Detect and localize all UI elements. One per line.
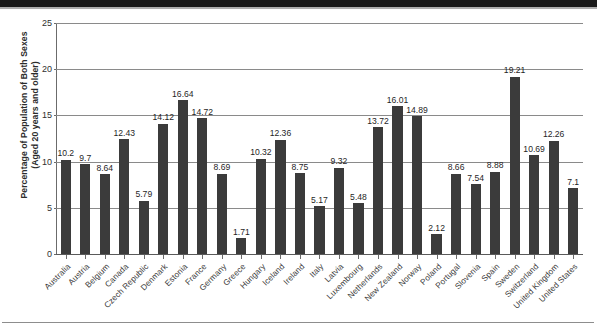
- bar-value-label: 8.64: [96, 163, 113, 173]
- y-axis-tick-label: 25: [30, 18, 52, 28]
- bar-group[interactable]: 7.54: [466, 23, 486, 254]
- bar-group[interactable]: 8.75: [290, 23, 310, 254]
- bar[interactable]: [158, 124, 168, 254]
- bar[interactable]: [178, 100, 188, 254]
- bar[interactable]: [568, 188, 578, 254]
- y-axis-tick-label: 10: [30, 157, 52, 167]
- bar-group[interactable]: 8.88: [485, 23, 505, 254]
- bar[interactable]: [236, 238, 246, 254]
- bar-value-label: 8.88: [487, 160, 504, 170]
- bar[interactable]: [490, 172, 500, 254]
- bar[interactable]: [353, 203, 363, 254]
- x-axis-tick-labels: AustraliaAustriaBelgiumCanadaCzech Repub…: [56, 260, 583, 322]
- bar[interactable]: [197, 118, 207, 254]
- bar-value-label: 7.54: [467, 173, 484, 183]
- bar-value-label: 14.72: [192, 107, 214, 117]
- x-axis-tick-mark: [456, 255, 457, 259]
- x-axis-tick-mark: [339, 255, 340, 259]
- x-axis-tick-mark: [85, 255, 86, 259]
- x-axis-tick-mark: [378, 255, 379, 259]
- bar[interactable]: [412, 116, 422, 254]
- x-axis-tick-mark: [417, 255, 418, 259]
- bar-group[interactable]: 9.32: [329, 23, 349, 254]
- x-axis-tick-mark: [319, 255, 320, 259]
- bar[interactable]: [256, 159, 266, 254]
- bar-group[interactable]: 12.43: [115, 23, 135, 254]
- bar-group[interactable]: 16.64: [173, 23, 193, 254]
- bar-group[interactable]: 7.1: [563, 23, 583, 254]
- bar[interactable]: [451, 174, 461, 254]
- bar[interactable]: [510, 77, 520, 255]
- bar-group[interactable]: 8.64: [95, 23, 115, 254]
- bar-group[interactable]: 12.36: [271, 23, 291, 254]
- bar[interactable]: [529, 155, 539, 254]
- x-axis-tick-mark: [437, 255, 438, 259]
- bar-group[interactable]: 10.2: [56, 23, 76, 254]
- bar[interactable]: [139, 201, 149, 254]
- x-axis-tick-label: Australia: [43, 262, 73, 292]
- y-axis-tick-label: 20: [30, 64, 52, 74]
- bar[interactable]: [119, 139, 129, 254]
- bar-group[interactable]: 10.69: [524, 23, 544, 254]
- bar-group[interactable]: 8.66: [446, 23, 466, 254]
- bar-value-label: 16.64: [172, 89, 194, 99]
- bar-group[interactable]: 19.21: [505, 23, 525, 254]
- x-axis-label-slot: Denmark: [154, 260, 174, 322]
- bar-group[interactable]: 14.12: [154, 23, 174, 254]
- x-axis-tick-mark: [573, 255, 574, 259]
- bar-value-label: 16.01: [387, 95, 409, 105]
- bar-group[interactable]: 13.72: [368, 23, 388, 254]
- bar[interactable]: [334, 168, 344, 254]
- bar-value-label: 9.7: [79, 153, 91, 163]
- bar[interactable]: [392, 106, 402, 254]
- bar-value-label: 8.69: [214, 162, 231, 172]
- bar-value-label: 2.12: [428, 223, 445, 233]
- bar[interactable]: [314, 206, 324, 254]
- bar-group[interactable]: 2.12: [427, 23, 447, 254]
- bar-value-label: 9.32: [331, 156, 348, 166]
- bar-group[interactable]: 9.7: [76, 23, 96, 254]
- bar[interactable]: [431, 234, 441, 254]
- bar-group[interactable]: 5.48: [349, 23, 369, 254]
- bar-group[interactable]: 8.69: [212, 23, 232, 254]
- x-axis-label-slot: United States: [563, 260, 583, 322]
- bar-group[interactable]: 16.01: [388, 23, 408, 254]
- bar-group[interactable]: 1.71: [232, 23, 252, 254]
- bar-value-label: 13.72: [367, 116, 389, 126]
- x-axis-tick-mark: [398, 255, 399, 259]
- bar[interactable]: [61, 160, 71, 254]
- y-axis-tick-labels: 0510152025: [24, 23, 52, 254]
- bar-value-label: 8.75: [292, 162, 309, 172]
- bar-group[interactable]: 12.26: [544, 23, 564, 254]
- bar-value-label: 8.66: [448, 162, 465, 172]
- x-axis-tick-mark: [202, 255, 203, 259]
- bar-value-label: 5.48: [350, 192, 367, 202]
- bar-value-label: 14.12: [153, 112, 175, 122]
- bar-value-label: 10.2: [57, 148, 74, 158]
- bar-value-label: 7.1: [567, 177, 579, 187]
- x-axis-tick-mark: [358, 255, 359, 259]
- bar[interactable]: [295, 173, 305, 254]
- x-axis-label-slot: Australia: [56, 260, 76, 322]
- x-axis-label-slot: Poland: [427, 260, 447, 322]
- bar-group[interactable]: 5.79: [134, 23, 154, 254]
- bar[interactable]: [471, 184, 481, 254]
- x-axis-tick-mark: [105, 255, 106, 259]
- bar-group[interactable]: 5.17: [310, 23, 330, 254]
- bar-value-label: 19.21: [504, 65, 526, 75]
- bar-group[interactable]: 14.89: [407, 23, 427, 254]
- bar[interactable]: [217, 174, 227, 254]
- x-axis-tick-mark: [163, 255, 164, 259]
- bar-value-label: 12.36: [270, 128, 292, 138]
- x-axis-label-slot: Belgium: [95, 260, 115, 322]
- bar[interactable]: [100, 174, 110, 254]
- x-axis-tick-mark: [261, 255, 262, 259]
- bar-group[interactable]: 10.32: [251, 23, 271, 254]
- x-axis-tick-mark: [124, 255, 125, 259]
- x-axis-tick-mark: [515, 255, 516, 259]
- bar[interactable]: [275, 140, 285, 254]
- bar-group[interactable]: 14.72: [193, 23, 213, 254]
- bar[interactable]: [549, 141, 559, 254]
- bar[interactable]: [373, 127, 383, 254]
- bar[interactable]: [80, 164, 90, 254]
